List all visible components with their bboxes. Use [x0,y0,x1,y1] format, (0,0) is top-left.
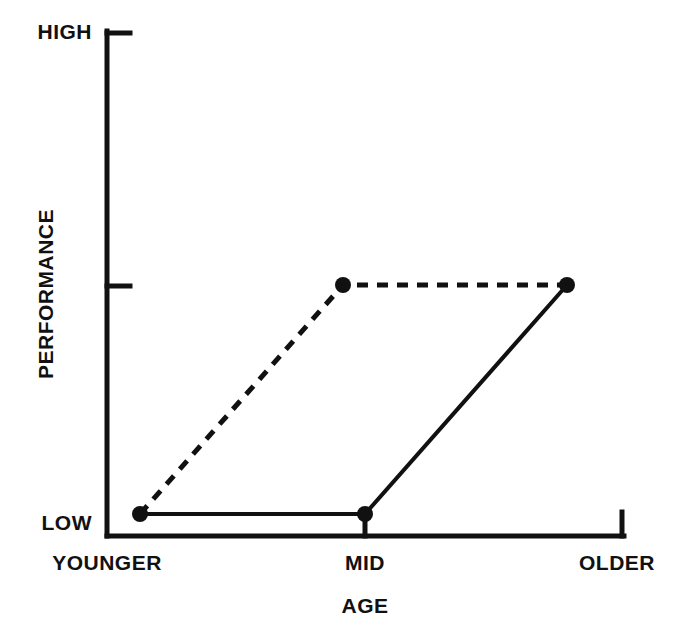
x-axis-tick-label-older: OLDER [562,551,672,575]
x-axis-tick-label-mid: MID [315,551,415,575]
series-dashed-path [140,285,567,514]
y-axis-high-label: HIGH [0,20,92,44]
series-dashed [140,285,567,514]
chart-plot-area [0,0,681,644]
data-point-older-high [559,277,575,293]
data-point-mid-high [335,277,351,293]
series-solid-path [140,285,567,514]
data-point-markers [132,277,575,522]
x-axis-title: AGE [305,594,425,618]
x-axis-tick-label-younger: YOUNGER [47,551,167,575]
series-solid [140,285,567,514]
data-point-younger-low [132,506,148,522]
performance-age-chart: HIGH LOW YOUNGER MID OLDER PERFORMANCE A… [0,0,681,644]
y-axis-low-label: LOW [0,511,92,535]
y-axis-title: PERFORMANCE [34,194,58,394]
data-point-mid-low [357,506,373,522]
